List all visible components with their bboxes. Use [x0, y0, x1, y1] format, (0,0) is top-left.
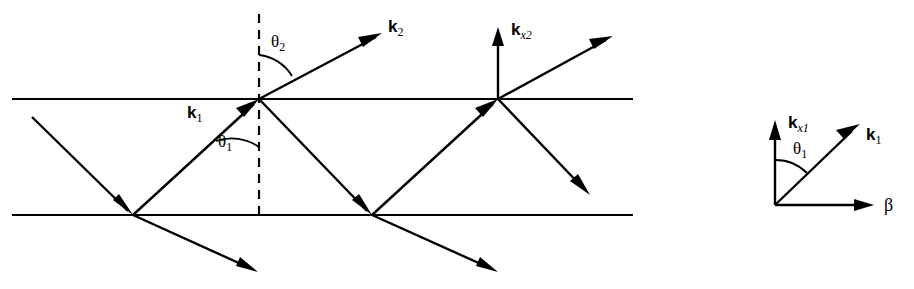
vector-kx2	[492, 27, 504, 99]
label-k1: k1	[187, 104, 202, 124]
label-theta1: θ1	[218, 133, 232, 153]
inset-label-k1-subscript: 1	[875, 133, 881, 147]
inset-label-kx1: kx1	[788, 114, 809, 134]
inset-label-theta1-symbol: θ	[793, 139, 801, 158]
ray-leak-bottom-1-arrowhead	[236, 257, 258, 272]
ray-leak-bottom-2-arrowhead	[476, 257, 498, 272]
label-theta2-symbol: θ	[271, 32, 279, 51]
ray-leak-bottom-1	[133, 215, 258, 272]
inset-group	[769, 120, 874, 211]
ray-refracted-2	[498, 36, 613, 99]
inset-label-k1: k1	[866, 126, 881, 146]
label-k2-subscript: 2	[397, 25, 403, 39]
inset-label-beta-symbol: β	[884, 195, 893, 215]
inset-vector-kx1-arrowhead	[769, 120, 781, 140]
inset-vector-beta	[775, 199, 874, 211]
incoming-ray-arrowhead	[113, 194, 133, 215]
label-k2: k2	[388, 18, 403, 38]
inset-label-beta: β	[884, 196, 893, 214]
label-kx2: kx2	[511, 21, 532, 41]
inset-vector-beta-arrowhead	[854, 199, 874, 211]
inset-theta1-angle-arc	[775, 160, 807, 173]
label-theta2: θ2	[271, 33, 285, 53]
boundaries-group	[12, 99, 633, 215]
label-kx2-subscript: x2	[520, 28, 531, 42]
ray-upward-2-arrowhead	[475, 99, 498, 117]
theta2-angle-arc	[259, 55, 292, 76]
inset-label-theta1-subscript: 1	[801, 147, 807, 161]
ray-k1-arrowhead	[236, 99, 259, 117]
vector-kx2-arrowhead	[492, 27, 504, 46]
label-k1-subscript: 1	[196, 111, 202, 125]
inset-vector-k1-arrowhead	[836, 124, 860, 139]
ray-upward-2	[372, 99, 498, 215]
inset-label-kx1-subscript: x1	[797, 121, 808, 135]
figure-canvas	[0, 0, 914, 289]
ray-leak-bottom-2	[372, 215, 498, 272]
label-theta1-subscript: 1	[226, 140, 232, 154]
label-theta2-subscript: 2	[279, 40, 285, 54]
inset-label-theta1: θ1	[793, 140, 807, 160]
incoming-ray	[32, 117, 133, 215]
ray-reflected-down-1	[259, 99, 372, 215]
figure-root: k2 θ2 k1 θ1 kx2 kx1 k1 θ1 β	[0, 0, 914, 289]
label-theta1-symbol: θ	[218, 132, 226, 151]
ray-reflected-down-2	[498, 99, 590, 195]
inset-vector-k1	[775, 124, 860, 205]
inset-vector-kx1	[769, 120, 781, 205]
